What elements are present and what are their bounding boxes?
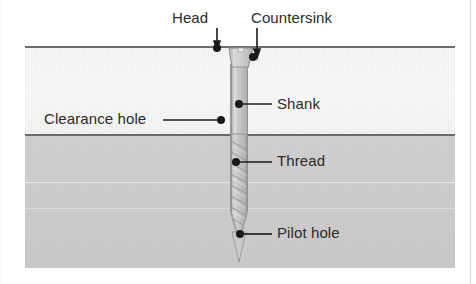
label-head: Head [172, 9, 208, 26]
label-clearance-hole: Clearance hole [44, 110, 146, 127]
workpiece-assembly [25, 46, 455, 268]
grain-line-2 [25, 208, 455, 209]
top-surface-line [25, 46, 455, 48]
grain-line-1 [25, 182, 455, 183]
material-interface-line [25, 134, 455, 136]
frame-edge-left [1, 0, 2, 284]
lower-workpiece [25, 136, 455, 268]
frame-edge-right [470, 0, 471, 284]
diagram-canvas: Head Countersink Shank Thread Pilot hole… [0, 0, 476, 284]
label-pilot-hole: Pilot hole [277, 224, 340, 241]
label-thread: Thread [277, 152, 325, 169]
label-countersink: Countersink [251, 9, 332, 26]
label-shank: Shank [277, 95, 320, 112]
